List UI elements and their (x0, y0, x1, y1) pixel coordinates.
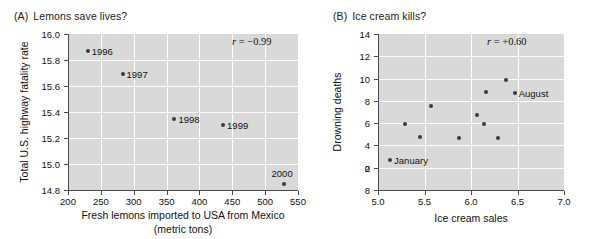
y-axis-tick (374, 168, 378, 169)
panel-a-r-symbol: r (232, 36, 236, 47)
y-axis-tick-label: 8 (336, 185, 370, 196)
panel-b-plot-area: JanuaryAugust (378, 34, 564, 190)
gridline-vertical (101, 34, 102, 190)
panel-b-correlation-annotation: r = +0.60 (487, 36, 527, 47)
data-point-label: 1996 (92, 45, 113, 56)
x-axis-tick (134, 191, 135, 195)
x-axis-tick-label: 5.5 (418, 196, 431, 207)
data-point (482, 122, 486, 126)
y-axis-tick (374, 101, 378, 102)
data-point-label: August (519, 88, 549, 99)
y-axis-tick-label: 4 (336, 140, 370, 151)
y-axis-tick (64, 86, 68, 87)
x-axis-tick-label: 450 (224, 196, 240, 207)
y-axis-tick (374, 79, 378, 80)
panel-a-title-text: Lemons save lives? (33, 10, 127, 22)
data-point-label: 1998 (178, 113, 199, 124)
y-axis-tick (64, 60, 68, 61)
x-axis-tick (199, 191, 200, 195)
y-axis-tick-label: 12 (336, 51, 370, 62)
data-point (429, 104, 433, 108)
x-axis-tick-label: 400 (191, 196, 207, 207)
data-point (221, 123, 225, 127)
x-axis-tick (298, 191, 299, 195)
data-point (513, 91, 517, 95)
gridline-vertical (425, 34, 426, 190)
y-axis-tick-label: 15.6 (26, 81, 60, 92)
data-point (388, 158, 392, 162)
panel-b: (B)Ice cream kills? JanuaryAugust r = +0… (305, 0, 611, 239)
data-point-label: 2000 (272, 167, 293, 178)
y-axis-tick-label: 15.2 (26, 133, 60, 144)
gridline-vertical (471, 34, 472, 190)
data-point (86, 49, 90, 53)
x-axis-tick (518, 191, 519, 195)
y-axis-tick-label: 15.4 (26, 107, 60, 118)
panel-a-tag: (A) (14, 10, 28, 22)
x-axis-tick (167, 191, 168, 195)
y-axis-tick-label: 14.8 (26, 185, 60, 196)
data-point (121, 72, 125, 76)
panel-b-r-symbol: r (487, 36, 491, 47)
y-axis-tick-label: 14 (336, 29, 370, 40)
x-axis-tick-label: 350 (159, 196, 175, 207)
x-axis-tick (232, 191, 233, 195)
gridline-vertical (134, 34, 135, 190)
y-axis-tick (374, 123, 378, 124)
x-axis-tick-label: 300 (126, 196, 142, 207)
x-axis-tick-label: 5.0 (371, 196, 384, 207)
y-axis-tick (374, 145, 378, 146)
data-point (484, 90, 488, 94)
panel-a-correlation-annotation: r = −0.99 (232, 36, 272, 47)
x-axis-tick-label: 250 (93, 196, 109, 207)
y-axis-tick-label: 8 (336, 95, 370, 106)
y-axis-tick (374, 56, 378, 57)
panel-b-y-axis-line (378, 34, 379, 190)
panel-b-x-axis-title: Ice cream sales (378, 212, 564, 224)
gridline-horizontal (68, 164, 298, 165)
x-axis-tick (265, 191, 266, 195)
y-axis-tick (64, 112, 68, 113)
x-axis-tick-label: 6.5 (511, 196, 524, 207)
figure-container: (A)Lemons save lives? 199619971998199920… (0, 0, 611, 239)
gridline-vertical (232, 34, 233, 190)
x-axis-tick-label: 200 (60, 196, 76, 207)
gridline-vertical (518, 34, 519, 190)
x-axis-tick (471, 191, 472, 195)
data-point (496, 136, 500, 140)
y-axis-tick-label: 15.8 (26, 55, 60, 66)
data-point (457, 136, 461, 140)
x-axis-tick (101, 191, 102, 195)
data-point (172, 117, 176, 121)
y-axis-tick-label: 6 (336, 118, 370, 129)
y-axis-tick-label: 15.0 (26, 159, 60, 170)
panel-a: (A)Lemons save lives? 199619971998199920… (0, 0, 305, 239)
gridline-horizontal (68, 138, 298, 139)
x-axis-tick-label: 550 (290, 196, 306, 207)
x-axis-tick (564, 191, 565, 195)
data-point (504, 78, 508, 82)
y-axis-tick-label: 0 (336, 162, 370, 173)
y-axis-tick-label: 10 (336, 73, 370, 84)
x-axis-tick-label: 6.0 (464, 196, 477, 207)
data-point (475, 113, 479, 117)
x-axis-tick-label: 500 (257, 196, 273, 207)
panel-a-x-axis-title-line2: (metric tons) (60, 223, 306, 235)
panel-b-r-value: = +0.60 (494, 36, 527, 47)
data-point (403, 122, 407, 126)
x-axis-tick (68, 191, 69, 195)
panel-a-title: (A)Lemons save lives? (14, 10, 127, 22)
data-point-label: 1997 (127, 69, 148, 80)
gridline-vertical (265, 34, 266, 190)
y-axis-tick (64, 164, 68, 165)
panel-b-title-text: Ice cream kills? (352, 10, 426, 22)
data-point (282, 182, 286, 186)
y-axis-tick-label: 16.0 (26, 29, 60, 40)
panel-a-x-axis-line (68, 190, 298, 191)
data-point-label: 1999 (227, 120, 248, 131)
y-axis-tick (64, 34, 68, 35)
panel-a-plot-area: 19961997199819992000 (68, 34, 298, 190)
panel-a-y-axis-line (68, 34, 69, 190)
panel-b-title: (B)Ice cream kills? (333, 10, 426, 22)
panel-a-x-axis-title-line1: Fresh lemons imported to USA from Mexico (60, 209, 306, 221)
